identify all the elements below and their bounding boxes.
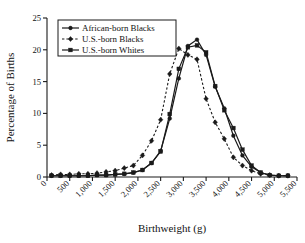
legend-label: African-born Blacks bbox=[82, 23, 155, 33]
x-tick-label: 500 bbox=[55, 178, 71, 194]
data-point-marker bbox=[131, 171, 135, 175]
x-tick-label: 5,000 bbox=[255, 178, 276, 199]
data-point-marker bbox=[195, 43, 199, 47]
data-point-marker bbox=[249, 168, 254, 173]
data-point-marker bbox=[231, 134, 235, 138]
x-tick-label: 1,000 bbox=[73, 178, 94, 199]
x-tick-label: 4,500 bbox=[232, 178, 253, 199]
data-point-marker bbox=[231, 126, 235, 130]
series-line bbox=[52, 45, 288, 175]
y-tick-label: 5 bbox=[37, 140, 41, 150]
data-point-marker bbox=[240, 163, 245, 168]
data-point-marker bbox=[195, 57, 200, 62]
data-point-marker bbox=[222, 108, 226, 112]
x-tick-label: 2,500 bbox=[141, 178, 162, 199]
data-point-marker bbox=[259, 171, 263, 175]
y-tick-label: 25 bbox=[32, 13, 41, 23]
data-point-marker bbox=[69, 48, 73, 52]
x-tick-label: 2,000 bbox=[119, 178, 140, 199]
data-point-marker bbox=[250, 164, 254, 168]
y-axis-title: Percentage of Births bbox=[4, 53, 16, 143]
data-point-marker bbox=[122, 165, 127, 170]
x-tick-label: 3,500 bbox=[187, 178, 208, 199]
data-point-marker bbox=[141, 168, 145, 172]
data-point-marker bbox=[204, 96, 209, 101]
data-point-marker bbox=[122, 172, 126, 176]
x-tick-label: 1,500 bbox=[96, 178, 117, 199]
data-point-marker bbox=[159, 150, 163, 154]
birthweight-distribution-chart: 051015202505001,0001,5002,0002,5003,0003… bbox=[0, 0, 305, 243]
y-tick-label: 20 bbox=[32, 45, 41, 55]
series-3 bbox=[50, 43, 290, 177]
data-point-marker bbox=[69, 26, 73, 30]
data-point-marker bbox=[241, 153, 245, 157]
data-point-marker bbox=[213, 84, 217, 88]
chart-container: 051015202505001,0001,5002,0002,5003,0003… bbox=[0, 0, 305, 243]
data-point-marker bbox=[167, 71, 172, 76]
data-point-marker bbox=[77, 174, 81, 178]
data-point-marker bbox=[241, 148, 245, 152]
data-point-marker bbox=[177, 46, 182, 51]
y-tick-label: 10 bbox=[32, 108, 41, 118]
data-point-marker bbox=[277, 174, 281, 178]
data-point-marker bbox=[104, 173, 108, 177]
data-point-marker bbox=[86, 174, 90, 178]
series-line bbox=[52, 40, 288, 176]
data-point-marker bbox=[268, 173, 272, 177]
x-tick-label: 5,500 bbox=[278, 178, 299, 199]
legend-label: U.S.-born Blacks bbox=[82, 34, 144, 44]
x-tick-label: 3,000 bbox=[164, 178, 185, 199]
x-tick-label: 4,000 bbox=[209, 178, 230, 199]
series-1 bbox=[50, 38, 290, 178]
data-point-marker bbox=[50, 174, 54, 178]
data-point-marker bbox=[158, 117, 163, 122]
data-point-marker bbox=[186, 45, 190, 49]
x-axis-title: Birthweight (g) bbox=[138, 222, 206, 235]
data-point-marker bbox=[204, 50, 208, 54]
data-point-marker bbox=[59, 174, 63, 178]
data-point-marker bbox=[113, 173, 117, 177]
data-point-marker bbox=[286, 174, 290, 178]
legend-label: U.S.-born Whites bbox=[82, 45, 145, 55]
data-point-marker bbox=[168, 112, 172, 116]
data-point-marker bbox=[150, 161, 154, 165]
data-point-marker bbox=[95, 173, 99, 177]
data-point-marker bbox=[195, 38, 199, 42]
data-point-marker bbox=[177, 67, 181, 71]
y-tick-label: 15 bbox=[32, 77, 41, 87]
data-point-marker bbox=[68, 174, 72, 178]
